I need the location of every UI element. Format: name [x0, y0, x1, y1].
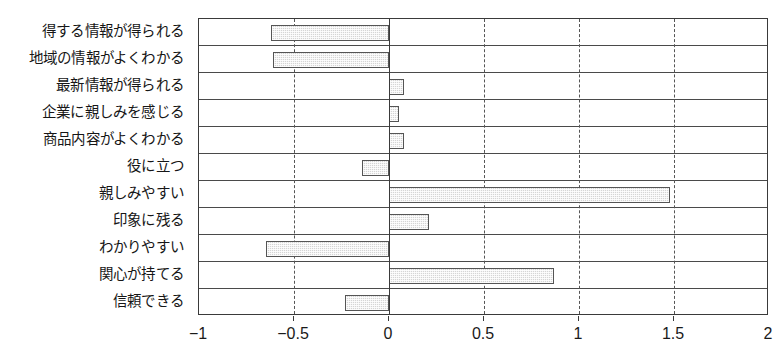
horizontal-bar-chart: 得する情報が得られる地域の情報がよくわかる最新情報が得られる企業に親しみを感じる… [0, 0, 778, 354]
row-gridline [199, 208, 767, 235]
category-label: 地域の情報がよくわかる [0, 45, 192, 72]
x-tick-mark [673, 316, 674, 321]
vertical-gridline [674, 19, 675, 314]
category-label: 商品内容がよくわかる [0, 126, 192, 153]
bar [389, 268, 554, 284]
category-label: 企業に親しみを感じる [0, 99, 192, 126]
x-tick-label: 0 [384, 324, 393, 344]
bar [345, 295, 389, 311]
row-gridline [199, 73, 767, 100]
bar [389, 133, 404, 149]
category-label: わかりやすい [0, 234, 192, 261]
category-label: 得する情報が得られる [0, 18, 192, 45]
row-gridline [199, 289, 767, 316]
category-axis: 得する情報が得られる地域の情報がよくわかる最新情報が得られる企業に親しみを感じる… [0, 18, 192, 315]
vertical-gridline [579, 19, 580, 314]
category-label: 関心が持てる [0, 261, 192, 288]
bar [266, 241, 390, 257]
x-tick-label: −1 [189, 324, 207, 344]
bar [271, 25, 389, 41]
x-tick-label: 1.5 [662, 324, 684, 344]
x-tick-label: 1 [574, 324, 583, 344]
bar [362, 160, 389, 176]
bar [273, 52, 389, 68]
bar [389, 79, 404, 95]
bar [389, 214, 429, 230]
row-gridline [199, 100, 767, 127]
category-label: 最新情報が得られる [0, 72, 192, 99]
category-label: 役に立つ [0, 153, 192, 180]
x-tick-label: 2 [764, 324, 773, 344]
x-axis-tick-labels: −1−0.500.511.52 [198, 324, 768, 348]
row-gridline [199, 154, 767, 181]
x-tick-mark [483, 316, 484, 321]
x-tick-label: 0.5 [472, 324, 494, 344]
x-tick-mark [578, 316, 579, 321]
category-label: 信頼できる [0, 288, 192, 315]
x-axis-tick-marks [198, 316, 768, 324]
category-label: 親しみやすい [0, 180, 192, 207]
category-label: 印象に残る [0, 207, 192, 234]
zero-line [389, 19, 390, 314]
bar [389, 106, 399, 122]
bar [389, 187, 670, 203]
row-gridline [199, 127, 767, 154]
plot-area [198, 18, 768, 315]
x-tick-mark [388, 316, 389, 321]
x-tick-label: −0.5 [277, 324, 309, 344]
x-tick-mark [293, 316, 294, 321]
